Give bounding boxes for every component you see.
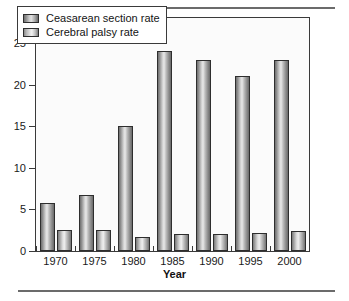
bar-1995-series-1 — [252, 233, 267, 251]
bar-1975-series-0 — [79, 195, 94, 251]
x-axis-tick — [192, 246, 193, 252]
y-axis-tick-label: 20 — [14, 79, 26, 90]
x-axis-tick — [114, 246, 115, 252]
y-axis-tick-label: 5 — [20, 204, 26, 215]
bar-1970-series-1 — [57, 230, 72, 251]
legend-swatch-icon-series-1 — [23, 28, 39, 37]
x-axis-tick — [75, 246, 76, 252]
bar-1995-series-0 — [235, 76, 250, 251]
x-axis-title: Year — [0, 268, 349, 280]
bar-1980-series-0 — [118, 126, 133, 251]
x-axis-tick — [270, 246, 271, 252]
legend-item-ceasarean-section-rate: Ceasarean section rate — [23, 11, 160, 25]
y-axis-tick — [29, 168, 36, 169]
x-axis-tick-label-1975: 1975 — [82, 256, 106, 267]
x-axis-tick-label-1995: 1995 — [238, 256, 262, 267]
x-axis-tick-label-1970: 1970 — [43, 256, 67, 267]
bar-1985-series-0 — [157, 51, 172, 251]
x-axis-tick — [36, 246, 37, 252]
legend-swatch-icon-series-0 — [23, 14, 39, 23]
y-axis-tick-label: 10 — [14, 162, 26, 173]
x-axis-tick-label-2000: 2000 — [277, 256, 301, 267]
x-axis-tick-label-1980: 1980 — [121, 256, 145, 267]
bottom-divider-rule — [18, 290, 335, 292]
y-axis-tick-label: 15 — [14, 121, 26, 132]
y-axis-tick-label: 0 — [20, 246, 26, 257]
bar-1980-series-1 — [135, 237, 150, 251]
bar-1990-series-0 — [196, 60, 211, 251]
y-axis-tick — [29, 209, 36, 210]
plot-area: 05101520251970197519801985199019952000 — [36, 18, 309, 251]
y-axis-tick — [29, 85, 36, 86]
chart-legend: Ceasarean section rate Cerebral palsy ra… — [17, 6, 167, 44]
legend-label-series-1: Cerebral palsy rate — [46, 26, 139, 38]
bar-2000-series-1 — [291, 231, 306, 251]
bar-1970-series-0 — [40, 203, 55, 251]
bar-1990-series-1 — [213, 234, 228, 251]
figure: 05101520251970197519801985199019952000 C… — [0, 0, 349, 301]
bar-1975-series-1 — [96, 230, 111, 251]
y-axis-tick — [29, 126, 36, 127]
x-axis-tick — [231, 246, 232, 252]
legend-label-series-0: Ceasarean section rate — [46, 12, 160, 24]
x-axis-tick-label-1985: 1985 — [160, 256, 184, 267]
x-axis-tick — [153, 246, 154, 252]
bar-2000-series-0 — [274, 60, 289, 251]
legend-item-cerebral-palsy-rate: Cerebral palsy rate — [23, 25, 160, 39]
bar-1985-series-1 — [174, 234, 189, 251]
x-axis-tick-label-1990: 1990 — [199, 256, 223, 267]
